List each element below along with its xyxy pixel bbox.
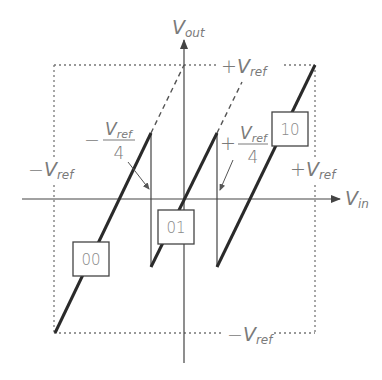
extension-line-right <box>217 82 242 133</box>
threshold-arrow-positive <box>220 160 233 190</box>
pos-denominator: 4 <box>248 147 259 167</box>
extension-line-left <box>151 65 184 133</box>
code-box-01: 01 <box>158 210 194 244</box>
threshold-label-negative: − Vref 4 <box>84 119 135 163</box>
code-box-00: 00 <box>73 242 109 276</box>
pos-numerator: Vref <box>240 123 269 145</box>
y-axis-label: Vout <box>172 16 206 40</box>
adc-transfer-diagram: 00 01 10 Vout Vin +Vref −Vref −Vref +Vre… <box>0 0 382 380</box>
code-label-00: 00 <box>81 251 100 269</box>
threshold-label-positive: + Vref 4 <box>220 123 269 167</box>
label-minus-vref-left: −Vref <box>28 158 75 182</box>
neg-numerator: Vref <box>105 119 134 141</box>
code-label-10: 10 <box>280 121 299 139</box>
label-plus-vref-right: +Vref <box>290 158 337 182</box>
x-axis-label: Vin <box>345 187 369 211</box>
code-label-01: 01 <box>166 219 185 237</box>
neg-denominator: 4 <box>114 143 125 163</box>
segment-00 <box>55 133 151 333</box>
neg-sign: − <box>84 128 100 150</box>
pos-sign: + <box>220 132 236 154</box>
code-box-10: 10 <box>272 112 308 146</box>
